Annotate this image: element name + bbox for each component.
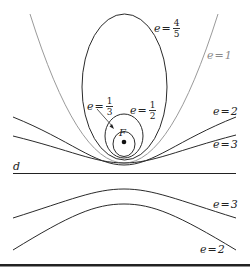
label-focus: F: [119, 128, 126, 138]
label-e-1: e=1: [207, 50, 232, 61]
hyperbola-e3-lower: [13, 189, 236, 218]
label-e-3-lower: e=3: [213, 199, 238, 210]
focus-point: [122, 140, 127, 145]
label-e-2-lower: e=2: [200, 244, 225, 255]
label-e-1-2: e=12: [130, 100, 156, 121]
label-e-1-3: e=13: [87, 96, 113, 117]
label-e-3-upper: e=3: [213, 139, 238, 150]
bottom-rule: [0, 264, 250, 267]
label-directrix: d: [13, 161, 20, 172]
label-e-4-5: e=45: [154, 18, 180, 39]
label-e-2-upper: e=2: [213, 106, 238, 117]
hyperbola-e3-upper: [13, 135, 236, 163]
e13-pointer-arrowhead: [110, 124, 115, 129]
